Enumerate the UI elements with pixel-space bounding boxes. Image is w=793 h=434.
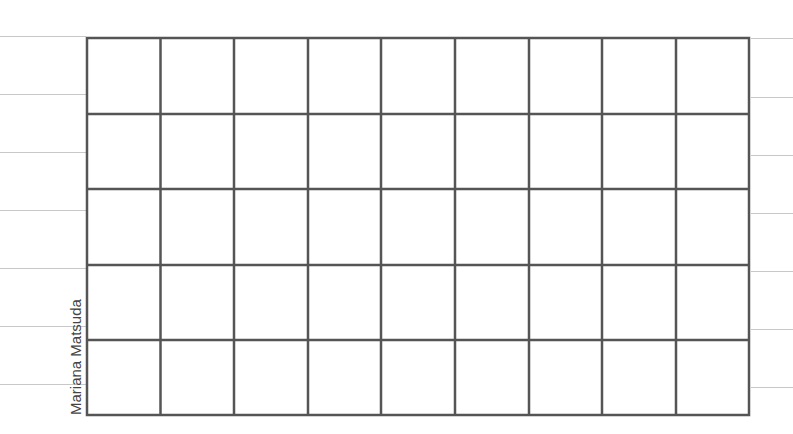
author-label: Mariana Matsuda [68,299,83,415]
ruled-line [751,271,793,272]
ruled-line [0,210,86,211]
grid-lines [87,38,749,415]
ruled-line [0,152,86,153]
ruled-line [751,387,793,388]
ruled-line [751,97,793,98]
ruled-line [0,268,86,269]
ruled-line [751,38,793,39]
ruled-line [0,94,86,95]
empty-grid [87,38,749,415]
ruled-line [751,329,793,330]
ruled-line [751,155,793,156]
ruled-line [0,36,86,37]
ruled-line [751,213,793,214]
